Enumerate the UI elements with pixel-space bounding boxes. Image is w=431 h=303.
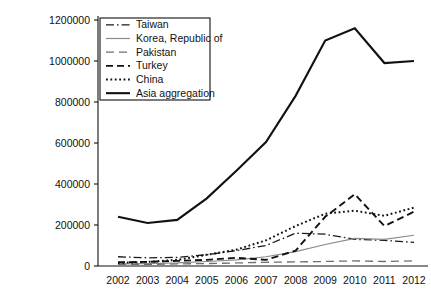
x-tick-label: 2012 [402,274,426,286]
legend-label: Taiwan [136,18,169,30]
series-line-china [118,208,414,263]
legend-label: Korea, Republic of [136,32,222,44]
legend-label: China [136,73,164,85]
chart-canvas: 0200000400000600000800000100000012000002… [0,0,431,303]
y-tick-label: 800000 [55,96,90,108]
x-tick-label: 2006 [225,274,249,286]
x-tick-label: 2010 [343,274,367,286]
line-chart: 0200000400000600000800000100000012000002… [0,0,431,303]
y-tick-label: 600000 [55,137,90,149]
series-line-taiwan [118,233,414,258]
y-tick-label: 200000 [55,219,90,231]
legend-label: Turkey [136,59,168,71]
y-tick-label: 1200000 [49,14,90,26]
x-tick-label: 2004 [166,274,190,286]
x-tick-label: 2009 [314,274,338,286]
legend-label: Pakistan [136,46,176,58]
y-tick-label: 1000000 [49,55,90,67]
y-tick-label: 400000 [55,178,90,190]
x-tick-label: 2003 [136,274,160,286]
x-tick-label: 2005 [195,274,219,286]
legend-label: Asia aggregation [136,87,215,99]
x-tick-label: 2002 [106,274,130,286]
series-line-turkey [118,194,414,262]
y-tick-label: 0 [84,260,90,272]
x-tick-label: 2007 [254,274,278,286]
x-tick-label: 2011 [373,274,396,286]
x-tick-label: 2008 [284,274,308,286]
